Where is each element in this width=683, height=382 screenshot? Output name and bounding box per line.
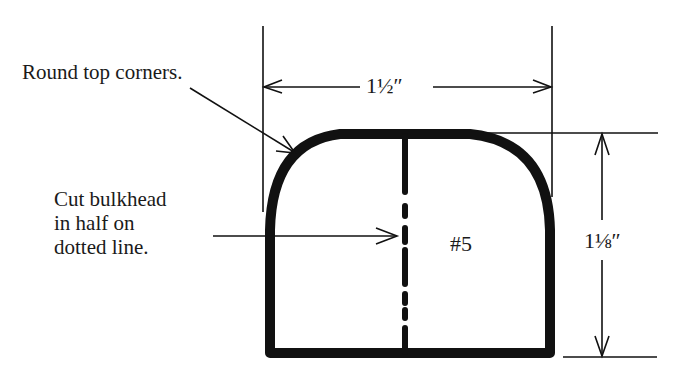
cut-line-leader-arrow	[213, 228, 397, 244]
cut-instruction-line-2: in half on	[54, 211, 167, 235]
cut-instruction-line-3: dotted line.	[54, 235, 167, 259]
cut-instruction-line-1: Cut bulkhead	[54, 187, 167, 211]
round-corners-label: Round top corners.	[22, 60, 182, 84]
round-corners-leader-arrow	[190, 88, 295, 153]
part-number-label: #5	[450, 232, 472, 256]
width-dimension-label: 1½″	[362, 74, 407, 98]
cut-instruction-label: Cut bulkhead in half on dotted line.	[54, 187, 167, 259]
height-dimension-label: 1⅛″	[580, 229, 625, 253]
bulkhead-outline	[270, 134, 550, 353]
width-dimension-arrow	[264, 80, 551, 93]
